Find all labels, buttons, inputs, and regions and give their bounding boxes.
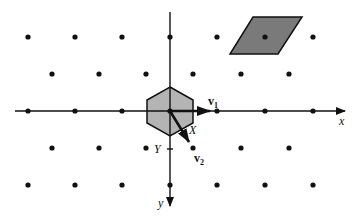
point-X-label: X bbox=[188, 123, 197, 137]
lattice-point bbox=[49, 145, 54, 150]
lattice-point bbox=[238, 145, 243, 150]
lattice-point bbox=[190, 145, 195, 150]
lattice-point bbox=[238, 71, 243, 76]
lattice-point bbox=[119, 108, 124, 113]
lattice-figure: x y v1 v2 X Y bbox=[0, 0, 357, 218]
lattice-point bbox=[167, 182, 172, 187]
lattice-point bbox=[143, 145, 148, 150]
lattice-point bbox=[214, 182, 219, 187]
lattice-point bbox=[72, 108, 77, 113]
lattice-point bbox=[96, 71, 101, 76]
lattice-point bbox=[214, 34, 219, 39]
lattice-diagram: x y v1 v2 X Y bbox=[0, 0, 357, 218]
lattice-point bbox=[72, 182, 77, 187]
lattice-point bbox=[72, 34, 77, 39]
lattice-point bbox=[286, 145, 291, 150]
lattice-point bbox=[25, 34, 30, 39]
lattice-point bbox=[119, 182, 124, 187]
lattice-point bbox=[96, 145, 101, 150]
lattice-point bbox=[310, 108, 315, 113]
lattice-point bbox=[310, 34, 315, 39]
lattice-point bbox=[143, 71, 148, 76]
x-axis-label: x bbox=[338, 114, 345, 128]
lattice-point bbox=[49, 71, 54, 76]
lattice-point bbox=[262, 108, 267, 113]
vector-v2-label: v2 bbox=[194, 151, 204, 167]
lattice-point bbox=[167, 34, 172, 39]
vector-v1-label: v1 bbox=[208, 94, 218, 110]
lattice-point bbox=[310, 182, 315, 187]
lattice-point bbox=[262, 34, 267, 39]
lattice-point bbox=[119, 34, 124, 39]
lattice-point bbox=[286, 71, 291, 76]
lattice-point bbox=[190, 71, 195, 76]
lattice-point bbox=[25, 182, 30, 187]
lattice-point bbox=[25, 108, 30, 113]
y-axis-label: y bbox=[157, 196, 164, 210]
lattice-point bbox=[262, 182, 267, 187]
point-Y-label: Y bbox=[154, 142, 162, 156]
